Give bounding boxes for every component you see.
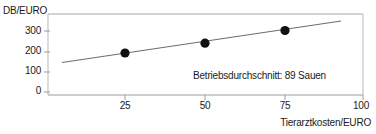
chart-annotation-farm-average: Betriebsdurchschnitt: 89 Sauen [193, 70, 326, 81]
y-axis-tick-label: 300 [11, 25, 41, 36]
data-point-marker [280, 26, 289, 35]
data-point-marker [200, 39, 209, 48]
x-axis-tick-label: 25 [108, 100, 142, 111]
y-axis-tick-label: 200 [11, 45, 41, 56]
x-axis-tick-label: 50 [188, 100, 222, 111]
x-axis-tick-label: 75 [268, 100, 302, 111]
chart-plot-area [0, 0, 376, 134]
y-axis-tick-label: 0 [11, 85, 41, 96]
x-axis-title: Tierarztkosten/EURO [280, 117, 371, 128]
y-axis-tick-label: 100 [11, 65, 41, 76]
y-axis-title: DB/EURO [3, 5, 47, 16]
data-point-marker [120, 48, 129, 57]
x-axis-tick-label: 100 [344, 100, 376, 111]
chart-container: DB/EURO 300 200 100 0 25 50 75 100 Betri… [0, 0, 376, 134]
